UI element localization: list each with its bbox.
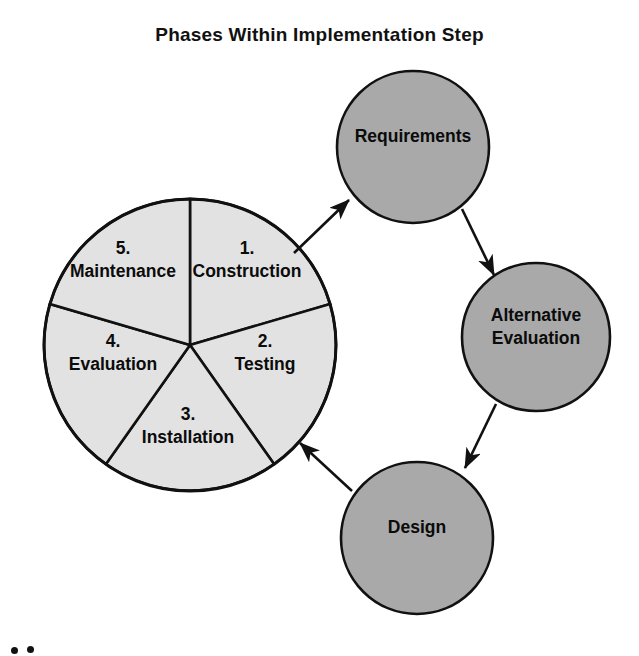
footnote-dots	[8, 640, 68, 656]
arrow-design-to-pie	[300, 443, 352, 491]
arrow-requirements-to-alternative-evaluation	[462, 209, 494, 275]
footnote-dot-2	[27, 646, 34, 653]
arrow-pie-to-requirements	[294, 200, 349, 253]
node-circle-alternative-evaluation[interactable]	[462, 263, 610, 411]
diagram-canvas	[0, 0, 639, 656]
footnote-dot-1	[11, 647, 18, 654]
arrow-alternative-evaluation-to-design	[465, 404, 496, 468]
node-circle-requirements[interactable]	[337, 71, 489, 223]
diagram-root: Phases Within Implementation Step	[0, 0, 639, 656]
pie-chart-shape[interactable]	[44, 199, 336, 491]
node-circle-design[interactable]	[341, 462, 493, 614]
